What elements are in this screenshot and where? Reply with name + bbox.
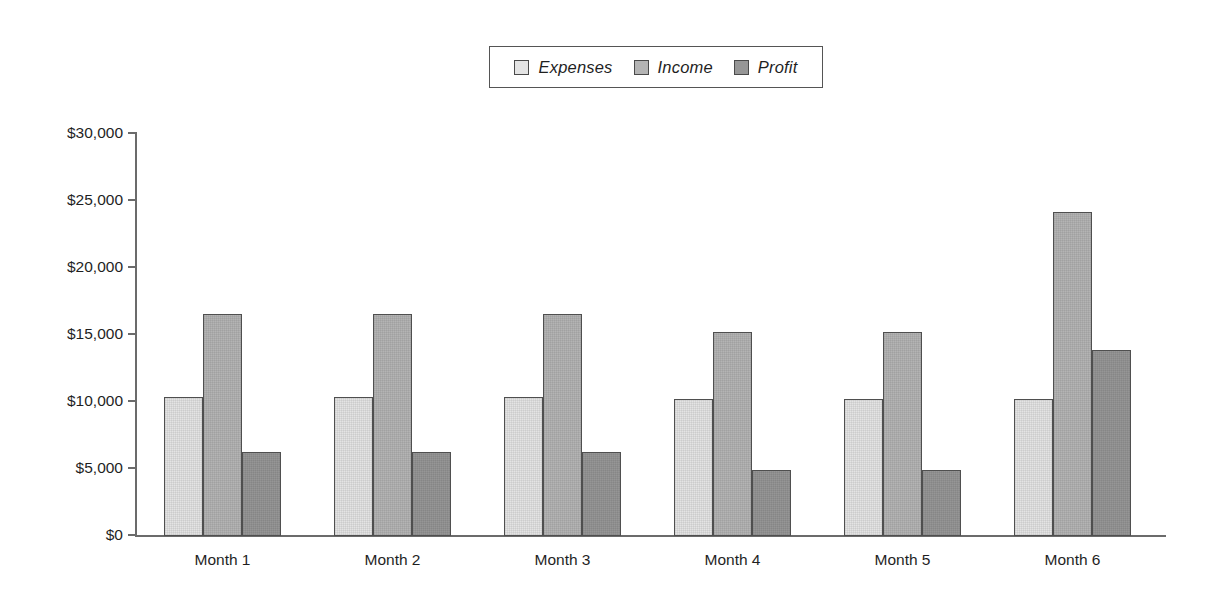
bar-expenses-month-1[interactable]	[164, 397, 203, 536]
y-axis-tick-label: $30,000	[23, 124, 123, 142]
x-axis-tick-label: Month 2	[308, 551, 478, 569]
bar-expenses-month-3[interactable]	[504, 397, 543, 536]
plot-area	[136, 133, 1166, 536]
bar-profit-month-1[interactable]	[242, 452, 281, 536]
bar-income-month-4[interactable]	[713, 332, 752, 536]
bar-expenses-month-2[interactable]	[334, 397, 373, 536]
y-axis-tick-label: $20,000	[23, 258, 123, 276]
x-axis-tick-label: Month 6	[988, 551, 1158, 569]
x-axis-tick-label: Month 3	[478, 551, 648, 569]
y-axis-tick-label: $10,000	[23, 392, 123, 410]
legend-entry-expenses[interactable]: Expenses	[514, 58, 612, 77]
bar-profit-month-2[interactable]	[412, 452, 451, 536]
bar-group	[164, 133, 281, 536]
chart-legend: ExpensesIncomeProfit	[489, 46, 823, 88]
bar-group	[334, 133, 451, 536]
bar-profit-month-5[interactable]	[922, 470, 961, 536]
legend-label: Expenses	[538, 58, 612, 77]
legend-label: Income	[658, 58, 713, 77]
bar-income-month-1[interactable]	[203, 314, 242, 536]
legend-label: Profit	[758, 58, 798, 77]
bar-income-month-2[interactable]	[373, 314, 412, 536]
y-axis-tick-label: $0	[23, 526, 123, 544]
bar-group	[504, 133, 621, 536]
legend-swatch-icon	[514, 60, 529, 75]
y-axis-tick-label: $5,000	[23, 459, 123, 477]
y-axis-tick-label: $25,000	[23, 191, 123, 209]
bar-profit-month-3[interactable]	[582, 452, 621, 536]
bar-group	[674, 133, 791, 536]
y-axis-tick-label: $15,000	[23, 325, 123, 343]
bar-expenses-month-5[interactable]	[844, 399, 883, 536]
bar-income-month-6[interactable]	[1053, 212, 1092, 536]
legend-entry-income[interactable]: Income	[634, 58, 713, 77]
x-axis-tick-label: Month 5	[818, 551, 988, 569]
bar-income-month-3[interactable]	[543, 314, 582, 536]
bar-group	[1014, 133, 1131, 536]
x-axis-tick-label: Month 4	[648, 551, 818, 569]
bar-expenses-month-6[interactable]	[1014, 399, 1053, 536]
bar-chart: ExpensesIncomeProfit $0$5,000$10,000$15,…	[0, 0, 1219, 606]
x-axis-tick-label: Month 1	[138, 551, 308, 569]
bar-expenses-month-4[interactable]	[674, 399, 713, 536]
legend-swatch-icon	[734, 60, 749, 75]
bar-group	[844, 133, 961, 536]
bar-profit-month-6[interactable]	[1092, 350, 1131, 536]
legend-swatch-icon	[634, 60, 649, 75]
legend-entry-profit[interactable]: Profit	[734, 58, 798, 77]
bar-profit-month-4[interactable]	[752, 470, 791, 536]
bar-income-month-5[interactable]	[883, 332, 922, 536]
